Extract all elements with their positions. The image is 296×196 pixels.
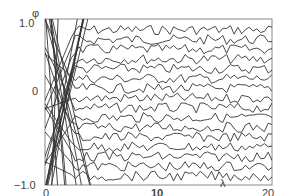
x-tick-mid: 10: [151, 188, 163, 196]
level-curve: [45, 93, 272, 109]
level-curves: [45, 19, 272, 185]
x-tick-right: 20: [262, 188, 274, 196]
crossing-line: [51, 19, 82, 185]
crossing-line: [46, 19, 77, 185]
x-axis-label: λ: [220, 178, 226, 189]
level-curve: [45, 113, 272, 164]
level-curve: [45, 54, 272, 165]
x-tick-left: 0: [43, 188, 49, 196]
y-tick-bottom: −1.0: [14, 180, 36, 191]
y-tick-mid: 0: [32, 86, 38, 97]
plot-area: [0, 0, 296, 196]
y-tick-top: 1.0: [19, 18, 34, 29]
